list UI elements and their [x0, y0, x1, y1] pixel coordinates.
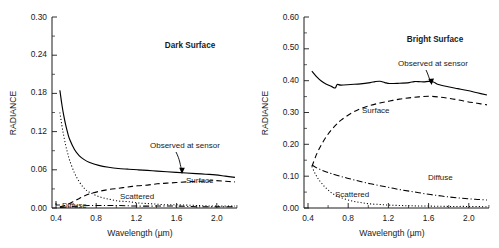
x-tick-label-0: 0.4 [302, 213, 314, 223]
x-tick-label-4: 2.0 [211, 213, 223, 223]
curve-observed-at-sensor [60, 90, 235, 177]
series-label-scattered: Scattered [335, 190, 369, 199]
x-tick-label-0: 0.4 [50, 213, 62, 223]
y-tick-label-0: 0.00 [283, 203, 300, 213]
series-label-diffuse: Diffuse [428, 173, 453, 182]
y-tick-label-5: 0.50 [283, 42, 300, 52]
y-tick-label-2: 0.12 [31, 126, 48, 136]
x-axis-title: Wavelength (µm) [359, 228, 424, 238]
y-tick-label-5: 0.30 [31, 12, 48, 22]
y-axis-major-ticks [304, 17, 309, 208]
curve-observed-at-sensor [312, 71, 487, 95]
x-axis-title: Wavelength (µm) [107, 228, 172, 238]
panel-title: Bright Surface [407, 35, 464, 44]
y-axis-title: RADIANCE [260, 91, 270, 136]
y-tick-label-1: 0.06 [31, 164, 48, 174]
diffuse-leader-line [56, 201, 60, 205]
x-axis-major-ticks [308, 203, 469, 208]
y-tick-label-4: 0.40 [283, 75, 300, 85]
series-label-diffuse: Diffuse [62, 201, 87, 210]
bright-surface-plot: RADIANCE 0.00 0.10 0.20 0.30 0.40 0.50 0… [250, 0, 499, 248]
curve-scattered [312, 167, 487, 207]
x-tick-label-3: 1.6 [171, 213, 183, 223]
y-tick-label-1: 0.10 [283, 171, 300, 181]
series-label-observed: Observed at sensor [398, 59, 468, 68]
x-tick-label-3: 1.6 [423, 213, 435, 223]
panel-dark-surface: RADIANCE 0.00 0.06 0.12 0.18 0.24 0.30 [0, 0, 249, 248]
panel-title: Dark Surface [165, 41, 216, 50]
y-axis-title: RADIANCE [8, 91, 18, 136]
x-tick-label-2: 1.2 [383, 213, 395, 223]
x-tick-label-1: 0.8 [342, 213, 354, 223]
series-label-surface: Surface [186, 176, 214, 185]
x-tick-label-1: 0.8 [90, 213, 102, 223]
figure-two-panel-radiance: RADIANCE 0.00 0.06 0.12 0.18 0.24 0.30 [0, 0, 499, 248]
x-tick-label-2: 1.2 [131, 213, 143, 223]
x-tick-label-4: 2.0 [463, 213, 475, 223]
series-label-observed: Observed at sensor [150, 141, 220, 150]
panel-bright-surface: RADIANCE 0.00 0.10 0.20 0.30 0.40 0.50 0… [250, 0, 499, 248]
series-label-surface: Surface [362, 106, 390, 115]
y-tick-label-2: 0.20 [283, 139, 300, 149]
y-tick-label-6: 0.60 [283, 12, 300, 22]
series-label-scattered: Scattered [120, 192, 154, 201]
y-tick-label-4: 0.24 [31, 49, 48, 59]
y-tick-label-3: 0.30 [283, 107, 300, 117]
y-tick-label-0: 0.00 [31, 203, 48, 213]
y-tick-label-3: 0.18 [31, 87, 48, 97]
dark-surface-plot: RADIANCE 0.00 0.06 0.12 0.18 0.24 0.30 [0, 0, 249, 248]
curve-surface [312, 96, 487, 166]
